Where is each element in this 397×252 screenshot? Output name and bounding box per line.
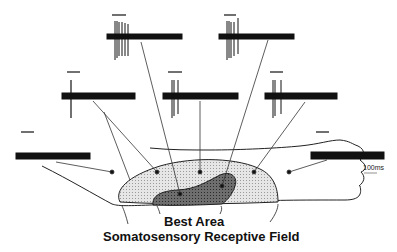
trace-mid-left: [62, 72, 135, 118]
best-area-label: Best Area: [164, 214, 224, 229]
trace-top-right: [219, 15, 294, 60]
trace-far-right: [311, 132, 384, 159]
scale-bar-label: 100ms: [363, 164, 384, 171]
receptive-field-label: Somatosensory Receptive Field: [103, 229, 300, 244]
trace-mid-center: [163, 72, 238, 118]
trace-mid-right: [265, 72, 337, 118]
trace-far-left: [16, 132, 90, 159]
trace-top-left: [107, 15, 182, 60]
